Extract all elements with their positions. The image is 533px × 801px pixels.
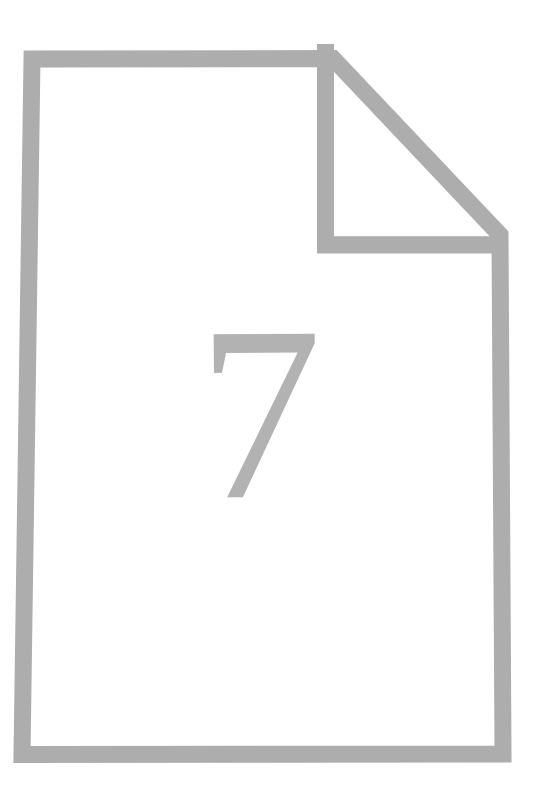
page-body-fill xyxy=(13,42,515,763)
page-with-folded-corner-icon xyxy=(0,0,533,801)
page-illustration-canvas: 7 Page 7 marker sheet xyxy=(0,0,533,801)
fold-shadow-band xyxy=(334,236,500,250)
